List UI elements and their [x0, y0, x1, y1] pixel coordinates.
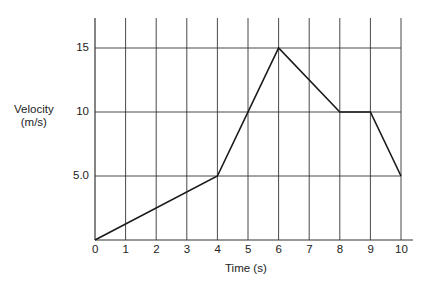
x-tick-label: 7: [306, 243, 312, 255]
y-tick-label: 5.0: [73, 169, 89, 181]
x-tick-label: 9: [367, 243, 373, 255]
y-tick-label: 10: [76, 105, 89, 117]
velocity-time-chart: [0, 0, 426, 293]
x-tick-label: 8: [337, 243, 343, 255]
y-axis-label-line-2: (m/s): [14, 116, 54, 129]
axes: [95, 18, 413, 240]
x-tick-label: 4: [214, 243, 220, 255]
x-tick-label: 6: [276, 243, 282, 255]
x-tick-label: 3: [184, 243, 190, 255]
y-axis-label-line-1: Velocity: [14, 103, 54, 116]
grid-lines: [95, 18, 401, 240]
x-tick-label: 1: [123, 243, 129, 255]
y-axis-label: Velocity (m/s): [14, 103, 54, 129]
y-tick-label: 15: [76, 41, 89, 53]
x-tick-label: 5: [245, 243, 251, 255]
x-tick-label: 10: [395, 243, 408, 255]
x-tick-label: 0: [92, 243, 98, 255]
x-axis-label: Time (s): [225, 262, 267, 274]
x-tick-label: 2: [153, 243, 159, 255]
